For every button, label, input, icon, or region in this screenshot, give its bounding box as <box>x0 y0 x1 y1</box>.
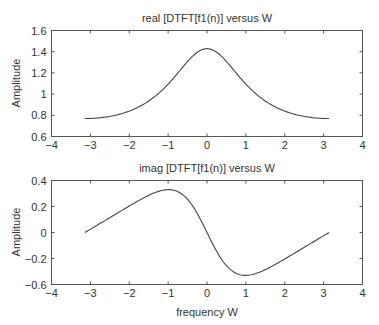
x-tick-label: 3 <box>321 287 327 299</box>
x-tick-label: −2 <box>123 139 136 151</box>
title-imag: imag [DTFT[f1(n)] versus W <box>139 162 275 174</box>
x-tick-label: −1 <box>162 139 175 151</box>
curve-real <box>85 49 329 119</box>
y-tick-label: 1.4 <box>31 46 46 58</box>
x-tick-label: 4 <box>359 287 365 299</box>
y-tick-label: 1 <box>40 88 46 100</box>
x-tick-label: 2 <box>282 139 288 151</box>
x-tick-label: −2 <box>123 287 136 299</box>
x-tick-label: −3 <box>84 287 97 299</box>
y-tick-label: 1.2 <box>31 67 46 79</box>
x-tick-label: −4 <box>45 139 58 151</box>
x-tick-label: −3 <box>84 139 97 151</box>
x-tick-label: −4 <box>45 287 58 299</box>
x-tick-label: 2 <box>282 287 288 299</box>
x-tick-label: 4 <box>359 139 365 151</box>
y-tick-label: 0.8 <box>31 109 46 121</box>
y-tick-label: 0 <box>40 227 46 239</box>
x-tick-label: 3 <box>321 139 327 151</box>
y-tick-label: 0.4 <box>31 175 46 187</box>
subplot-imag: imag [DTFT[f1(n)] versus W −4−3−2−101234… <box>10 162 366 318</box>
ylabel-real: Amplitude <box>10 59 22 108</box>
axes-frame-real <box>52 31 363 137</box>
x-tick-label: 1 <box>243 287 249 299</box>
y-tick-label: −0.6 <box>25 279 47 291</box>
y-tick-label: 0.6 <box>31 131 46 143</box>
x-tick-label: 1 <box>243 139 249 151</box>
curve-imag <box>85 190 329 276</box>
x-tick-label: 0 <box>204 139 210 151</box>
ticks-imag: −4−3−2−1012340.40.20−0.2−0.6 <box>25 175 366 299</box>
ticks-real: −4−3−2−1012341.61.41.210.80.6 <box>31 25 365 151</box>
y-tick-label: −0.2 <box>25 253 47 265</box>
ylabel-imag: Amplitude <box>10 208 22 257</box>
subplot-real: real [DTFT[f1(n)] versus W −4−3−2−101234… <box>10 12 366 151</box>
xlabel-imag: frequency W <box>176 306 238 318</box>
y-tick-label: 0.2 <box>31 201 46 213</box>
x-tick-label: −1 <box>162 287 175 299</box>
figure: real [DTFT[f1(n)] versus W −4−3−2−101234… <box>0 0 379 325</box>
title-real: real [DTFT[f1(n)] versus W <box>142 12 273 24</box>
x-tick-label: 0 <box>204 287 210 299</box>
y-tick-label: 1.6 <box>31 25 46 37</box>
